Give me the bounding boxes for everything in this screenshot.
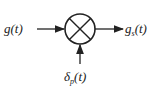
multiplier-block <box>65 14 95 44</box>
output-label-arg: (t) <box>135 21 147 36</box>
input-label: g(t) <box>4 22 23 35</box>
modulator-label: δp(t) <box>64 70 86 86</box>
input-label-arg: (t) <box>11 21 23 36</box>
output-label: gs(t) <box>125 22 147 38</box>
modulator-label-arg: (t) <box>74 69 86 84</box>
